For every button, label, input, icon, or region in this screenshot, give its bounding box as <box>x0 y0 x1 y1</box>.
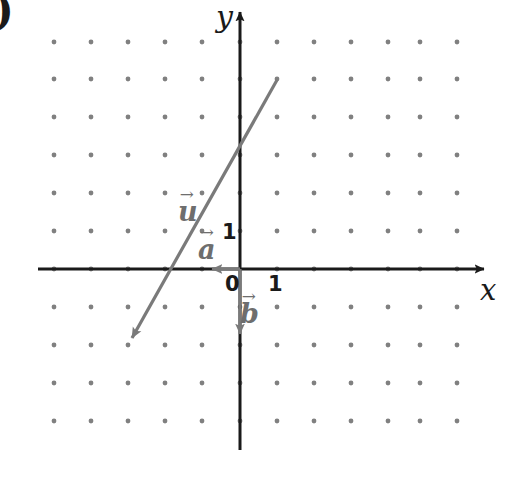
y-axis-tick-1: 1 <box>222 222 237 243</box>
y-axis-label: y <box>216 2 233 32</box>
grid-dot-lattice <box>52 40 460 424</box>
diagram-canvas <box>0 0 514 479</box>
vector-a-letter: a <box>198 234 216 265</box>
vector-a-label: → a <box>198 224 216 263</box>
vector-u-label: → u <box>178 186 198 225</box>
vector-diagram-figure: ) <box>0 0 514 479</box>
vector-b-label: → b <box>240 288 259 327</box>
x-axis-label: x <box>480 276 496 305</box>
vector-b-letter: b <box>240 298 259 329</box>
vector-u-letter: u <box>178 196 198 227</box>
x-axis-tick-1: 1 <box>268 274 283 295</box>
origin-tick-0: 0 <box>225 274 240 295</box>
